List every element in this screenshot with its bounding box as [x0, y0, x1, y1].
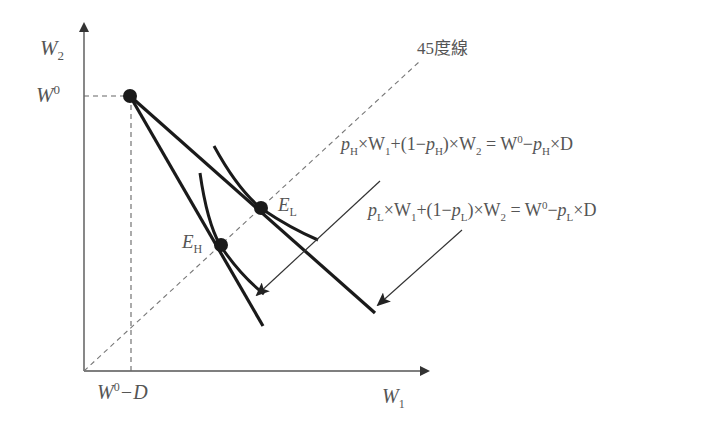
w0d-rest: −D: [120, 381, 148, 403]
budget-line-high-risk: [130, 96, 263, 326]
eqL-p2: p: [452, 200, 461, 220]
eH-sub: H: [194, 242, 203, 256]
eqL-t6: ×D: [573, 200, 596, 220]
w0-main: W: [36, 83, 54, 107]
line-45-label: 45度線: [417, 34, 468, 59]
eH-label: EH: [182, 231, 202, 257]
eqL-t5: −: [547, 200, 557, 220]
eqH-t6: ×D: [550, 134, 573, 154]
eqH-t5: −: [523, 134, 533, 154]
pointer-arrow-high: [257, 181, 380, 295]
x-label-main: W: [382, 385, 399, 407]
eqH-p: p: [341, 134, 350, 154]
budget-line-low-risk: [130, 96, 375, 313]
pointer-arrow-low: [378, 230, 462, 305]
eqH-t3: )×W: [443, 134, 476, 154]
indifference-curve-low: [214, 146, 318, 240]
w0-sup: 0: [54, 82, 61, 97]
eqH-p2: p: [426, 134, 435, 154]
y-label-main: W: [40, 36, 58, 60]
eqH-sub: H: [350, 145, 358, 157]
eL-label: EL: [278, 194, 297, 220]
eqL-p5: p: [558, 200, 567, 220]
equation-high-risk: pH×W1+(1−pH)×W2 = W0−pH×D: [341, 133, 573, 157]
eqH-t4: = W: [481, 134, 517, 154]
eqL-t3: )×W: [467, 200, 500, 220]
point-eL: [254, 201, 268, 215]
eqL-t1: ×W: [384, 200, 411, 220]
w0-minus-d-label: W0−D: [97, 380, 148, 404]
eqL-t4: = W: [506, 200, 542, 220]
eqH-p5: p: [533, 134, 542, 154]
y-axis-label: W2: [40, 36, 64, 64]
eH-main: E: [182, 231, 194, 252]
point-w0: [123, 89, 137, 103]
insurance-diagram: [0, 0, 718, 433]
y-label-sub: 2: [58, 48, 65, 63]
equation-low-risk: pL×W1+(1−pL)×W2 = W0−pL×D: [368, 199, 596, 223]
eqL-sub: L: [377, 211, 384, 223]
w0-label: W0: [36, 82, 60, 108]
eqH-t2: +(1−: [391, 134, 426, 154]
x-axis-label: W1: [382, 385, 405, 412]
w0d-main: W: [97, 381, 114, 403]
eqH-sub5: H: [542, 145, 550, 157]
eqL-p: p: [368, 200, 377, 220]
eL-sub: L: [290, 205, 297, 219]
eL-main: E: [278, 194, 290, 215]
point-eH: [214, 238, 228, 252]
x-label-sub: 1: [399, 397, 405, 411]
eqH-sub2: H: [435, 145, 443, 157]
eqH-t1: ×W: [358, 134, 385, 154]
eqL-t2: +(1−: [416, 200, 451, 220]
